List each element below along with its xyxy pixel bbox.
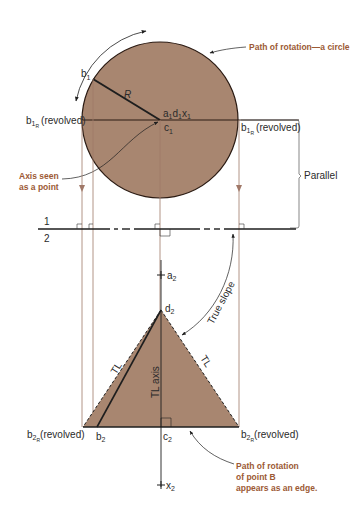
edge-note-line1: Path of rotation — [236, 461, 299, 471]
projector-arrow-left — [79, 185, 85, 192]
fold-line — [38, 224, 296, 236]
a2-point-icon — [157, 271, 165, 279]
parallel-bracket — [241, 120, 301, 228]
a2-label: a2 — [167, 270, 177, 282]
edge-note-leader — [190, 431, 234, 464]
fold-label-2: 2 — [44, 233, 50, 244]
b2R-left-label: b2R(revolved) — [27, 429, 85, 443]
axis-note-line2: as a point — [19, 182, 59, 192]
b1R-right-label: b1R(revolved) — [241, 122, 301, 136]
front-view — [83, 234, 239, 489]
b2-label: b2 — [96, 431, 106, 443]
revolution-diagram: Path of rotation—a circle b1 R a1d1x1 c1… — [0, 0, 364, 513]
edge-note-line2: of point B — [236, 472, 276, 482]
center-label: a1d1x1 — [163, 108, 191, 120]
c2-label: c2 — [163, 431, 172, 443]
x2-label: x2 — [166, 480, 175, 492]
fold-label-1: 1 — [44, 216, 50, 227]
b1R-left-label: b1R(revolved) — [26, 115, 86, 129]
projector-arrow-right — [236, 185, 242, 192]
circle-note: Path of rotation—a circle — [249, 42, 350, 52]
circle-note-leader — [210, 47, 246, 53]
radius-label: R — [124, 89, 131, 100]
axis-note-line1: Axis seen — [19, 171, 59, 181]
true-slope-label: True slope — [205, 279, 237, 326]
b2R-right-label: b2R(revolved) — [241, 429, 299, 443]
tl-right-label: TL — [198, 353, 214, 369]
parallel-label: Parallel — [304, 170, 337, 181]
edge-note-line3: appears as an edge. — [236, 483, 317, 493]
x2-point-icon — [157, 481, 165, 489]
tl-axis-label: TL axis — [150, 366, 161, 398]
d2-label: d2 — [165, 303, 175, 315]
